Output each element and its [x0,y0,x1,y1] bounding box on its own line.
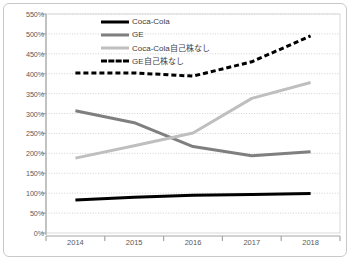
x-tick-label-2016: 2016 [185,238,202,247]
x-tick-label-2018: 2018 [302,238,319,247]
y-tick-label: 300% [26,109,44,118]
y-tick-label: 100% [26,189,44,198]
legend-swatch-icon [100,28,130,41]
y-tick-label: 400% [26,69,44,78]
legend-item-4: GE自己株なし [100,54,280,67]
legend-item-3: Coca-Cola自己株なし [100,41,280,54]
legend-swatch-icon [100,41,130,54]
x-tick-label-2015: 2015 [126,238,143,247]
y-tick-label: 550% [26,10,44,19]
y-tick-label: 200% [26,149,44,158]
y-axis-tick-labels: 0%50%100%150%200%250%300%350%400%450%500… [4,4,44,257]
y-tick-label: 150% [26,169,44,178]
y-tick-label: 500% [26,29,44,38]
y-tick-label: 50% [30,209,44,218]
x-tick-label-2017: 2017 [243,238,260,247]
chart-frame: 0%50%100%150%200%250%300%350%400%450%500… [3,3,347,257]
legend-label: GE [130,30,144,39]
legend-label: GE自己株なし [130,55,184,66]
y-tick-label: 0% [34,229,44,238]
legend-item-1: Coca-Cola [100,15,280,28]
y-tick-label: 250% [26,129,44,138]
y-tick-label: 450% [26,49,44,58]
chart-legend: Coca-ColaGECoca-Cola自己株なしGE自己株なし [100,15,280,67]
y-tick-label: 350% [26,89,44,98]
legend-item-2: GE [100,28,280,41]
x-tick-label-2014: 2014 [67,238,84,247]
legend-swatch-icon [100,15,130,28]
legend-swatch-icon [100,54,130,67]
legend-label: Coca-Cola自己株なし [130,42,210,53]
legend-label: Coca-Cola [130,17,170,26]
x-axis-tick-labels: 20142015201620172018 [4,238,347,256]
